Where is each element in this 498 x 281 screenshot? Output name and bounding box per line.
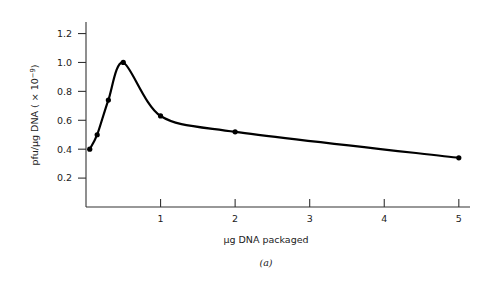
axes-group <box>86 22 470 207</box>
y-axis-title-close: ) <box>29 64 40 68</box>
data-point <box>87 147 92 152</box>
data-point <box>233 129 238 134</box>
x-tick-label: 4 <box>381 213 387 224</box>
y-axis-title: pfu/µg DNA ( × 10−9) <box>29 64 40 165</box>
data-point <box>456 155 461 160</box>
svg-text:pfu/µg DNA ( × 10−9): pfu/µg DNA ( × 10−9) <box>29 64 40 165</box>
y-tick-label: 0.4 <box>57 144 72 155</box>
y-tick-label: 0.6 <box>57 115 72 126</box>
y-axis-title-main: pfu/µg DNA ( × 10 <box>29 78 40 165</box>
data-point <box>158 113 163 118</box>
y-tick-label: 0.8 <box>57 86 72 97</box>
figure-caption: (a) <box>259 257 272 268</box>
y-tick-label: 1.2 <box>57 28 72 39</box>
x-axis-ticks: 12345 <box>158 199 462 224</box>
y-axis-ticks: 0.20.40.60.81.01.2 <box>57 28 86 184</box>
x-axis-title: µg DNA packaged <box>223 234 308 245</box>
data-point <box>121 60 126 65</box>
y-axis-title-exponent: −9 <box>29 68 37 78</box>
x-tick-label: 5 <box>456 213 462 224</box>
x-tick-label: 1 <box>158 213 164 224</box>
x-tick-label: 3 <box>307 213 313 224</box>
data-series-curve <box>90 62 459 158</box>
y-tick-label: 1.0 <box>57 57 72 68</box>
x-tick-label: 2 <box>232 213 238 224</box>
data-point-markers <box>87 60 461 161</box>
data-point <box>95 132 100 137</box>
chart-svg: 0.20.40.60.81.01.2 12345 pfu/µg DNA ( × … <box>0 0 498 281</box>
data-point <box>106 97 111 102</box>
y-tick-label: 0.2 <box>57 172 72 183</box>
figure-panel: 0.20.40.60.81.01.2 12345 pfu/µg DNA ( × … <box>0 0 498 281</box>
